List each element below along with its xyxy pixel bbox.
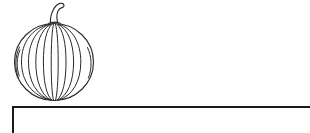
pumpkin-icon xyxy=(8,0,100,104)
pumpkin-rib-1 xyxy=(17,50,20,76)
worksheet-canvas xyxy=(0,0,310,133)
pumpkin-rib-11 xyxy=(59,24,81,100)
pumpkin-rib-12 xyxy=(88,48,92,79)
pumpkin-illustration xyxy=(8,0,100,104)
pumpkin-body-outline xyxy=(15,24,94,101)
pumpkin-rib-8 xyxy=(55,24,58,101)
answer-box[interactable] xyxy=(12,106,310,133)
pumpkin-stem-icon xyxy=(50,3,64,22)
pumpkin-rib-4 xyxy=(29,24,51,100)
pumpkin-rib-7 xyxy=(51,24,53,101)
